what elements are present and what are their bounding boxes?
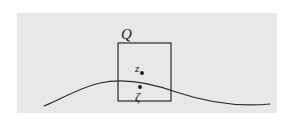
point-zeta-label: ζ (135, 90, 140, 103)
point-z-dot (140, 71, 144, 75)
square-q-label: Q (121, 27, 132, 42)
figure-canvas (0, 0, 291, 139)
shaded-domain-region (17, 13, 277, 113)
point-z-label: z (135, 63, 139, 74)
figure-container: Q z ζ (0, 0, 291, 139)
